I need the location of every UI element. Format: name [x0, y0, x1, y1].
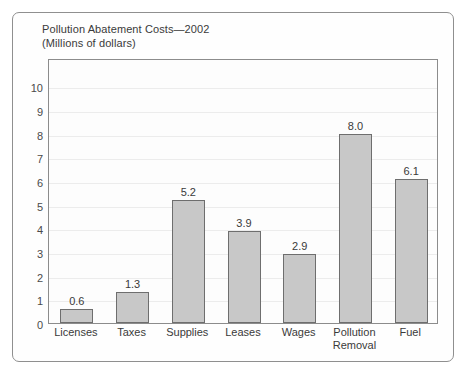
y-axis-tick-label: 6 — [37, 177, 43, 189]
y-axis-tick-label: 10 — [31, 82, 43, 94]
x-axis-labels: LicensesTaxesSuppliesLeasesWagesPollutio… — [48, 326, 438, 360]
bar-rect[interactable] — [395, 179, 428, 323]
x-axis-label-line: Fuel — [374, 326, 446, 339]
chart-subtitle: (Millions of dollars) — [42, 36, 210, 50]
bar-item[interactable]: 0.6 — [60, 58, 93, 323]
bar-value-label: 2.9 — [292, 240, 307, 252]
bar-item[interactable]: 1.3 — [116, 58, 149, 323]
bar-value-label: 1.3 — [125, 278, 140, 290]
bar-rect[interactable] — [283, 254, 316, 323]
y-axis-tick-label: 7 — [37, 153, 43, 165]
bar-value-label: 3.9 — [236, 217, 251, 229]
bar-rect[interactable] — [228, 231, 261, 323]
plot-area: 012345678910 0.61.35.23.92.98.06.1 — [48, 59, 438, 324]
y-axis-tick-label: 4 — [37, 224, 43, 236]
bar-rect[interactable] — [172, 200, 205, 323]
bar-rect[interactable] — [116, 292, 149, 323]
x-axis-category-label: Fuel — [374, 326, 446, 339]
x-axis-label-line: Removal — [318, 339, 390, 352]
bar-item[interactable]: 3.9 — [228, 58, 261, 323]
bar-item[interactable]: 6.1 — [395, 58, 428, 323]
bar-item[interactable]: 5.2 — [172, 58, 205, 323]
y-axis-tick-label: 8 — [37, 130, 43, 142]
bar-value-label: 0.6 — [69, 295, 84, 307]
bar-value-label: 6.1 — [403, 165, 418, 177]
bar-rect[interactable] — [60, 309, 93, 323]
chart-title-block: Pollution Abatement Costs—2002 (Millions… — [42, 22, 210, 50]
bar-rect[interactable] — [339, 134, 372, 323]
figure-frame: Pollution Abatement Costs—2002 (Millions… — [12, 12, 454, 362]
y-axis-tick-label: 2 — [37, 272, 43, 284]
y-axis-tick-label: 1 — [37, 295, 43, 307]
bar-item[interactable]: 2.9 — [283, 58, 316, 323]
bar-value-label: 5.2 — [181, 186, 196, 198]
y-axis-tick-label: 5 — [37, 201, 43, 213]
page-title: Pollution Abatement Costs—2002 — [42, 22, 210, 36]
y-axis-tick-label: 3 — [37, 248, 43, 260]
bar-value-label: 8.0 — [348, 120, 363, 132]
y-axis-tick-label: 9 — [37, 106, 43, 118]
bar-item[interactable]: 8.0 — [339, 58, 372, 323]
bar-series: 0.61.35.23.92.98.06.1 — [49, 60, 437, 323]
